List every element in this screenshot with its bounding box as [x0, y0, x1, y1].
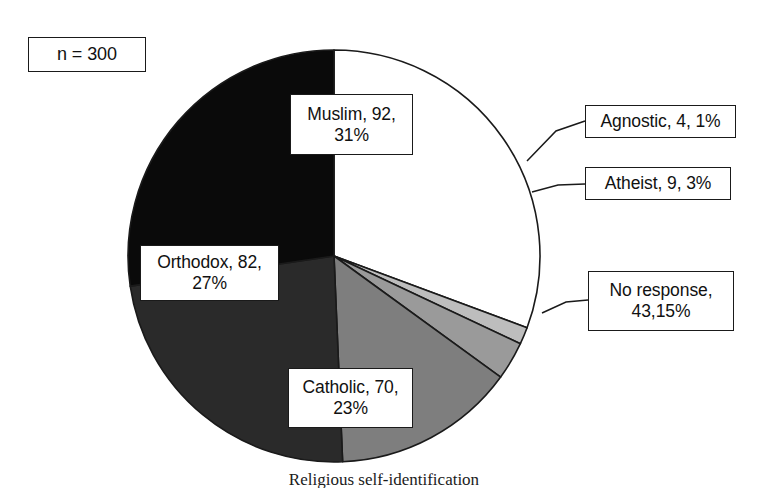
slice-label-orthodox-line2: 27%	[192, 273, 227, 294]
slice-label-orthodox-line1: Orthodox, 82,	[157, 252, 262, 273]
slice-label-muslim-line1: Muslim, 92,	[307, 104, 395, 125]
slice-label-catholic-line2: 23%	[333, 398, 368, 419]
pie-chart-figure: n = 300 Muslim, 92, 31% Agnostic, 4, 1% …	[0, 0, 768, 488]
slice-label-no-response-line1: No response,	[610, 280, 713, 301]
slice-label-agnostic: Agnostic, 4, 1%	[585, 105, 736, 138]
slice-label-agnostic-line1: Agnostic, 4, 1%	[600, 111, 720, 132]
slice-label-atheist-line1: Atheist, 9, 3%	[605, 173, 712, 194]
slice-label-atheist: Atheist, 9, 3%	[585, 167, 731, 200]
leader-line-atheist	[532, 184, 585, 192]
slice-label-muslim: Muslim, 92, 31%	[290, 94, 413, 155]
slice-label-muslim-line2: 31%	[334, 125, 369, 146]
figure-caption: Religious self-identification	[0, 470, 768, 488]
leader-line-no-response	[542, 300, 588, 313]
leader-line-agnostic	[527, 121, 585, 161]
slice-label-no-response: No response, 43,15%	[588, 271, 734, 331]
slice-label-catholic-line1: Catholic, 70,	[303, 377, 399, 398]
slice-label-orthodox: Orthodox, 82, 27%	[140, 245, 279, 301]
slice-label-catholic: Catholic, 70, 23%	[288, 368, 413, 428]
slice-label-no-response-line2: 43,15%	[632, 301, 691, 322]
sample-size-label: n = 300	[57, 44, 117, 65]
sample-size-box: n = 300	[28, 37, 146, 72]
